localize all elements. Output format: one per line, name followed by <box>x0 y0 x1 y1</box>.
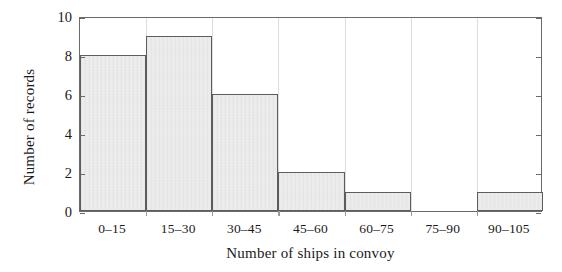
x-axis-tick-label: 0–15 <box>79 220 145 238</box>
histogram-bar <box>278 172 344 211</box>
x-axis-tick-mark <box>345 211 346 216</box>
y-axis-tick-mark <box>536 18 541 19</box>
y-axis-tick-labels: 0246810 <box>46 17 72 212</box>
plot-area <box>79 17 542 212</box>
histogram-bar <box>345 192 411 212</box>
y-axis-tick-mark <box>536 135 541 136</box>
x-axis-tick-mark <box>477 211 478 216</box>
x-axis-tick-label: 60–75 <box>344 220 410 238</box>
y-axis-tick-label: 0 <box>48 205 72 220</box>
x-axis-tick-label: 90–105 <box>476 220 542 238</box>
histogram-bar <box>80 55 146 211</box>
y-axis-tick-mark <box>80 213 85 214</box>
x-axis-tick-label: 15–30 <box>145 220 211 238</box>
y-axis-tick-mark <box>80 174 85 175</box>
histogram-figure: Number of records 0246810 0–1515–3030–45… <box>0 0 562 272</box>
y-axis-tick-mark <box>536 213 541 214</box>
histogram-bar <box>146 36 212 212</box>
y-axis-tick-label: 8 <box>48 49 72 64</box>
y-axis-tick-mark <box>80 18 85 19</box>
bars-layer <box>80 18 541 211</box>
y-axis-tick-label: 6 <box>48 88 72 103</box>
y-axis-tick-label: 4 <box>48 127 72 142</box>
x-axis-tick-mark <box>212 211 213 216</box>
y-axis-title: Number of records <box>16 12 42 242</box>
y-axis-tick-mark <box>536 96 541 97</box>
y-axis-tick-label: 10 <box>48 10 72 25</box>
histogram-bar <box>212 94 278 211</box>
y-axis-tick-mark <box>80 135 85 136</box>
x-axis-tick-label: 30–45 <box>211 220 277 238</box>
x-axis-tick-labels: 0–1515–3030–4545–6060–7575–9090–105 <box>79 220 542 240</box>
y-axis-tick-mark <box>80 57 85 58</box>
x-axis-title: Number of ships in convoy <box>79 243 542 263</box>
y-axis-tick-label: 2 <box>48 166 72 181</box>
y-axis-tick-mark <box>80 96 85 97</box>
x-axis-tick-label: 75–90 <box>410 220 476 238</box>
y-axis-tick-mark <box>536 174 541 175</box>
x-axis-tick-label: 45–60 <box>277 220 343 238</box>
histogram-bar <box>477 192 543 212</box>
x-axis-tick-mark <box>411 211 412 216</box>
x-axis-tick-mark <box>146 211 147 216</box>
x-axis-tick-mark <box>278 211 279 216</box>
y-axis-tick-mark <box>536 57 541 58</box>
